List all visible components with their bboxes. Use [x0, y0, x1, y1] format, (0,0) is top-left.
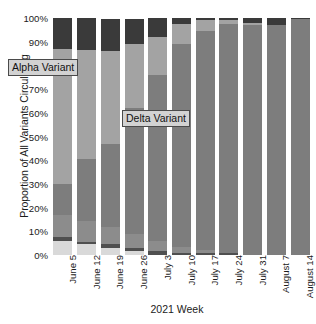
bar-segment — [172, 24, 191, 44]
x-axis-tick-july-24: July 24 — [233, 255, 244, 285]
bar-column[interactable] — [196, 18, 215, 255]
bar-segment — [196, 31, 215, 250]
bar-segment — [101, 227, 120, 245]
bar-column[interactable] — [219, 18, 238, 255]
y-axis-tick-0pct: 0% — [16, 250, 48, 261]
plot-area — [51, 18, 312, 255]
bar-segment — [172, 44, 191, 247]
annotation-alpha-variant: Alpha Variant — [8, 59, 78, 76]
bar-segment — [53, 184, 72, 215]
bar-segment — [101, 248, 120, 255]
bar-segment — [77, 18, 96, 50]
bar-segment — [148, 18, 167, 37]
bar-column[interactable] — [101, 18, 120, 255]
x-axis-tick-july-3: July 3 — [162, 255, 173, 280]
bar-segment — [101, 51, 120, 143]
bar-segment — [148, 241, 167, 252]
bar-segment — [77, 221, 96, 242]
bar-segment — [243, 23, 262, 25]
bar-segment — [267, 25, 286, 255]
bar-column[interactable] — [243, 18, 262, 255]
x-axis-tick-july-10: July 10 — [186, 255, 197, 285]
bar-segment — [291, 18, 310, 19]
bar-segment — [101, 144, 120, 227]
x-axis-tick-july-31: July 31 — [257, 255, 268, 285]
bar-column[interactable] — [53, 18, 72, 255]
bar-segment — [53, 241, 72, 255]
bar-segment — [172, 18, 191, 24]
bar-segment — [125, 248, 144, 252]
bar-segment — [219, 20, 238, 25]
x-axis-tick-august-7: August 7 — [280, 255, 291, 293]
bar-segment — [77, 159, 96, 221]
x-axis-tick-june-12: June 12 — [91, 255, 102, 289]
bar-segment — [148, 37, 167, 75]
bar-segment — [219, 18, 238, 20]
x-axis-tick-june-26: June 26 — [138, 255, 149, 289]
y-axis-tick-90pct: 90% — [16, 36, 48, 47]
bar-segment — [125, 44, 144, 108]
y-axis-tick-10pct: 10% — [16, 226, 48, 237]
bar-segment — [172, 247, 191, 253]
bar-segment — [101, 19, 120, 51]
x-axis-tick-june-5: June 5 — [67, 255, 78, 284]
bar-segment — [101, 244, 120, 248]
bar-segment — [196, 250, 215, 252]
bar-column[interactable] — [125, 18, 144, 255]
bar-segment — [125, 234, 144, 248]
bar-segment — [125, 19, 144, 44]
bar-column[interactable] — [291, 18, 310, 255]
bar-column[interactable] — [77, 18, 96, 255]
bar-segment — [77, 244, 96, 255]
bar-segment — [291, 19, 310, 255]
bar-segment — [243, 25, 262, 255]
x-axis-tick-july-17: July 17 — [209, 255, 220, 285]
y-axis-tick-70pct: 70% — [16, 84, 48, 95]
bar-segment — [196, 20, 215, 31]
bar-segment — [196, 18, 215, 20]
bar-column[interactable] — [172, 18, 191, 255]
y-axis-tick-100pct: 100% — [16, 13, 48, 24]
x-axis-tick-labels: June 5June 12June 19June 26July 3July 10… — [51, 255, 312, 305]
y-axis-tick-labels: 0%10%20%30%40%50%60%70%80%90%100% — [18, 0, 48, 324]
bar-segment — [53, 237, 72, 241]
x-axis-tick-june-19: June 19 — [114, 255, 125, 289]
x-axis-tick-august-14: August 14 — [304, 255, 315, 298]
annotation-delta-variant: Delta Variant — [122, 110, 190, 127]
y-axis-tick-20pct: 20% — [16, 202, 48, 213]
bar-column[interactable] — [148, 18, 167, 255]
bar-segment — [53, 215, 72, 238]
bar-segment — [219, 24, 238, 253]
bar-segment — [243, 18, 262, 23]
bar-segment — [77, 50, 96, 159]
bar-segment — [77, 242, 96, 244]
x-axis-title: 2021 Week — [0, 303, 316, 315]
bar-segment — [148, 75, 167, 241]
y-axis-tick-60pct: 60% — [16, 107, 48, 118]
stacked-bar-chart: Proportion of All Variants Circulating 0… — [0, 0, 316, 324]
bar-segment — [267, 18, 286, 25]
bar-column[interactable] — [267, 18, 286, 255]
y-axis-tick-50pct: 50% — [16, 131, 48, 142]
y-axis-tick-40pct: 40% — [16, 155, 48, 166]
y-axis-tick-30pct: 30% — [16, 178, 48, 189]
bar-segment — [53, 18, 72, 49]
